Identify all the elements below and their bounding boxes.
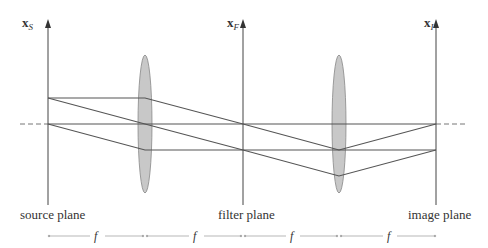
dimension-label-4: f bbox=[387, 229, 392, 243]
dimension-label-3: f bbox=[290, 229, 295, 243]
image-axis-label: xI bbox=[424, 15, 435, 32]
image-plane-axis bbox=[433, 19, 439, 205]
source-plane-label: source plane bbox=[20, 207, 86, 222]
source-axis-label: xS bbox=[22, 15, 34, 32]
focal-length-dimensions bbox=[48, 235, 436, 237]
filter-axis-label: xF bbox=[227, 15, 240, 32]
source-plane-axis bbox=[45, 19, 51, 205]
filter-plane-axis bbox=[240, 19, 246, 205]
four-f-system-diagram: xS xF xI source plane filter plane image… bbox=[0, 0, 488, 248]
rays bbox=[48, 98, 436, 176]
image-plane-label: image plane bbox=[408, 207, 471, 222]
dimension-label-2: f bbox=[193, 229, 198, 243]
filter-plane-label: filter plane bbox=[218, 207, 275, 222]
dimension-label-1: f bbox=[94, 229, 99, 243]
